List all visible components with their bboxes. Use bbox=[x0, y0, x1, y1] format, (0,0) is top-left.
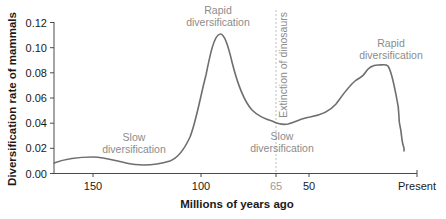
extinction-label: Extinction of dinosaurs bbox=[277, 12, 289, 118]
y-tick-label: 0.04 bbox=[26, 117, 47, 129]
y-axis-title: Diversification rate of mammals bbox=[6, 12, 18, 186]
x-tick-label: 50 bbox=[303, 180, 315, 192]
x-tick-label: Present bbox=[398, 180, 436, 192]
y-tick-label: 0.00 bbox=[26, 168, 47, 180]
annotation-rapid-2: Rapid diversification bbox=[359, 37, 423, 61]
x-tick-label: 65 bbox=[270, 180, 282, 192]
annotation-text: diversification bbox=[359, 49, 423, 61]
x-tick-label: 100 bbox=[192, 180, 210, 192]
y-tick-label: 0.02 bbox=[26, 142, 47, 154]
y-tick-label: 0.12 bbox=[26, 17, 47, 29]
x-axis-title: Millions of years ago bbox=[180, 198, 294, 210]
x-tick-labels: 150 100 65 50 Present bbox=[84, 180, 436, 192]
x-tick-label: 150 bbox=[84, 180, 102, 192]
annotation-slow-1: Slow diversification bbox=[102, 131, 166, 155]
annotation-text: Slow bbox=[123, 131, 146, 143]
annotation-text: Slow bbox=[271, 130, 294, 142]
y-ticks bbox=[50, 23, 54, 174]
diversification-chart: 0.00 0.02 0.04 0.06 0.08 0.10 0.12 Diver… bbox=[0, 0, 446, 219]
annotation-text: Rapid bbox=[204, 4, 232, 16]
annotation-text: diversification bbox=[186, 16, 250, 28]
annotation-text: Rapid bbox=[377, 37, 405, 49]
annotation-text: diversification bbox=[102, 143, 166, 155]
y-tick-label: 0.08 bbox=[26, 67, 47, 79]
annotation-slow-2: Slow diversification bbox=[250, 130, 314, 154]
y-tick-label: 0.06 bbox=[26, 92, 47, 104]
annotation-text: diversification bbox=[250, 142, 314, 154]
annotation-rapid-1: Rapid diversification bbox=[186, 4, 250, 28]
y-tick-labels: 0.00 0.02 0.04 0.06 0.08 0.10 0.12 bbox=[26, 17, 47, 180]
y-tick-label: 0.10 bbox=[26, 42, 47, 54]
